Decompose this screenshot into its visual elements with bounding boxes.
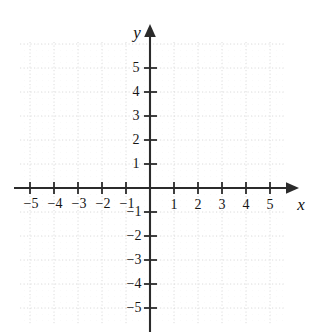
x-axis-arrowhead bbox=[286, 182, 299, 194]
y-tick-label--3: −3 bbox=[127, 253, 142, 267]
y-tick-label--5: −5 bbox=[127, 301, 142, 315]
y-tick-label-2: 2 bbox=[133, 133, 140, 147]
y-tick-label--2: −2 bbox=[127, 229, 142, 243]
y-tick-label--4: −4 bbox=[127, 277, 142, 291]
y-tick-label-4: 4 bbox=[133, 85, 140, 99]
x-tick-label-5: 5 bbox=[267, 198, 274, 212]
x-tick-label-2: 2 bbox=[195, 198, 202, 212]
x-tick-label--3: −3 bbox=[72, 197, 87, 211]
x-tick-label-3: 3 bbox=[219, 198, 226, 212]
y-tick-label-1: 1 bbox=[133, 157, 140, 171]
y-axis-label: y bbox=[133, 24, 141, 41]
x-tick-label--4: −4 bbox=[48, 197, 63, 211]
y-axis-arrowhead bbox=[144, 24, 156, 37]
y-tick-label-3: 3 bbox=[133, 109, 140, 123]
x-tick-label--2: −2 bbox=[96, 197, 111, 211]
x-axis-label: x bbox=[297, 196, 305, 213]
y-tick-label-5: 5 bbox=[133, 61, 140, 75]
x-tick-label--5: −5 bbox=[24, 197, 39, 211]
x-tick-label-1: 1 bbox=[171, 198, 178, 212]
axes-layer bbox=[0, 0, 312, 336]
x-tick-label-4: 4 bbox=[243, 198, 250, 212]
coordinate-plane-figure: y x −5 −4 −3 −2 −1 1 2 3 4 5 5 4 3 2 1 −… bbox=[0, 0, 312, 336]
y-tick-label--1: −1 bbox=[127, 205, 142, 219]
